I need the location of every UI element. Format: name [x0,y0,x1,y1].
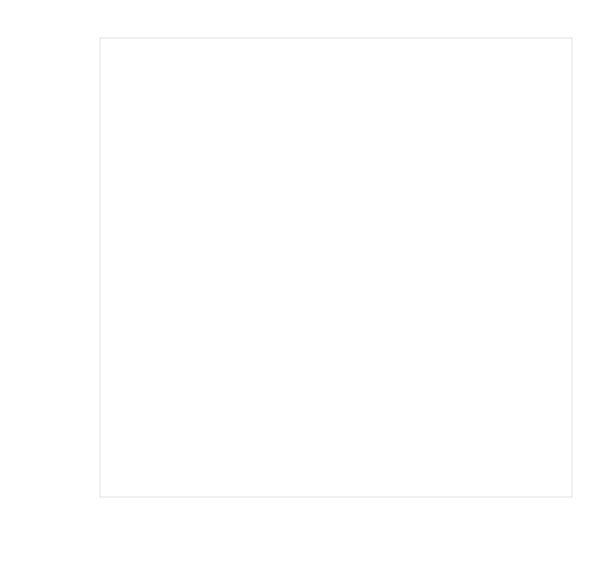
plot-border [100,38,572,497]
scatter-plot-figure [0,0,616,582]
plot-frame [100,38,572,497]
plot-canvas [0,0,616,582]
